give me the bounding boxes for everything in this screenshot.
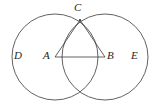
point-label-A: A: [43, 50, 50, 61]
geometry-figure: C D A B E: [0, 0, 160, 111]
vertex-point-C: [79, 19, 81, 21]
point-label-D: D: [14, 50, 22, 61]
segment-BC: [80, 20, 105, 57]
point-label-B: B: [107, 50, 114, 61]
point-label-E: E: [131, 50, 138, 61]
segment-AC: [55, 20, 80, 57]
point-label-C: C: [74, 2, 81, 13]
